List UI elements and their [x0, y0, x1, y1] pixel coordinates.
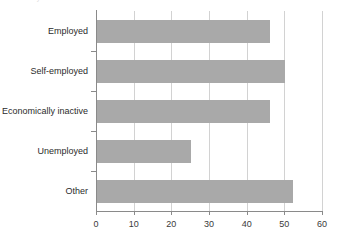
category-label-employed: Employed	[0, 26, 88, 36]
x-tick-label-20: 20	[166, 219, 176, 229]
x-tick-20	[171, 211, 172, 215]
x-tick-50	[284, 211, 285, 215]
x-tick-label-40: 40	[242, 219, 252, 229]
category-label-unemployed: Unemployed	[0, 146, 88, 156]
category-label-self-employed: Self-employed	[0, 66, 88, 76]
x-tick-60	[322, 211, 323, 215]
y-tick-1	[91, 51, 96, 52]
category-label-economically-inactive: Economically inactive	[0, 106, 88, 116]
x-tick-label-0: 0	[93, 219, 98, 229]
x-tick-label-30: 30	[204, 219, 214, 229]
x-tick-10	[134, 211, 135, 215]
x-tick-label-50: 50	[279, 219, 289, 229]
bar-self-employed	[97, 60, 285, 83]
x-tick-label-60: 60	[317, 219, 327, 229]
x-tick-0	[96, 211, 97, 215]
bar-other	[97, 180, 293, 203]
x-tick-40	[247, 211, 248, 215]
bar-chart: ......y 0102030405060 EmployedSelf-emplo…	[0, 0, 338, 239]
category-label-other: Other	[0, 186, 88, 196]
bar-unemployed	[97, 140, 191, 163]
y-tick-3	[91, 131, 96, 132]
clipped-top-text: ......y	[24, 0, 41, 2]
y-tick-2	[91, 91, 96, 92]
gridline-60	[322, 11, 323, 211]
x-tick-30	[209, 211, 210, 215]
x-tick-label-10: 10	[129, 219, 139, 229]
y-tick-4	[91, 171, 96, 172]
bar-employed	[97, 20, 270, 43]
bar-economically-inactive	[97, 100, 270, 123]
